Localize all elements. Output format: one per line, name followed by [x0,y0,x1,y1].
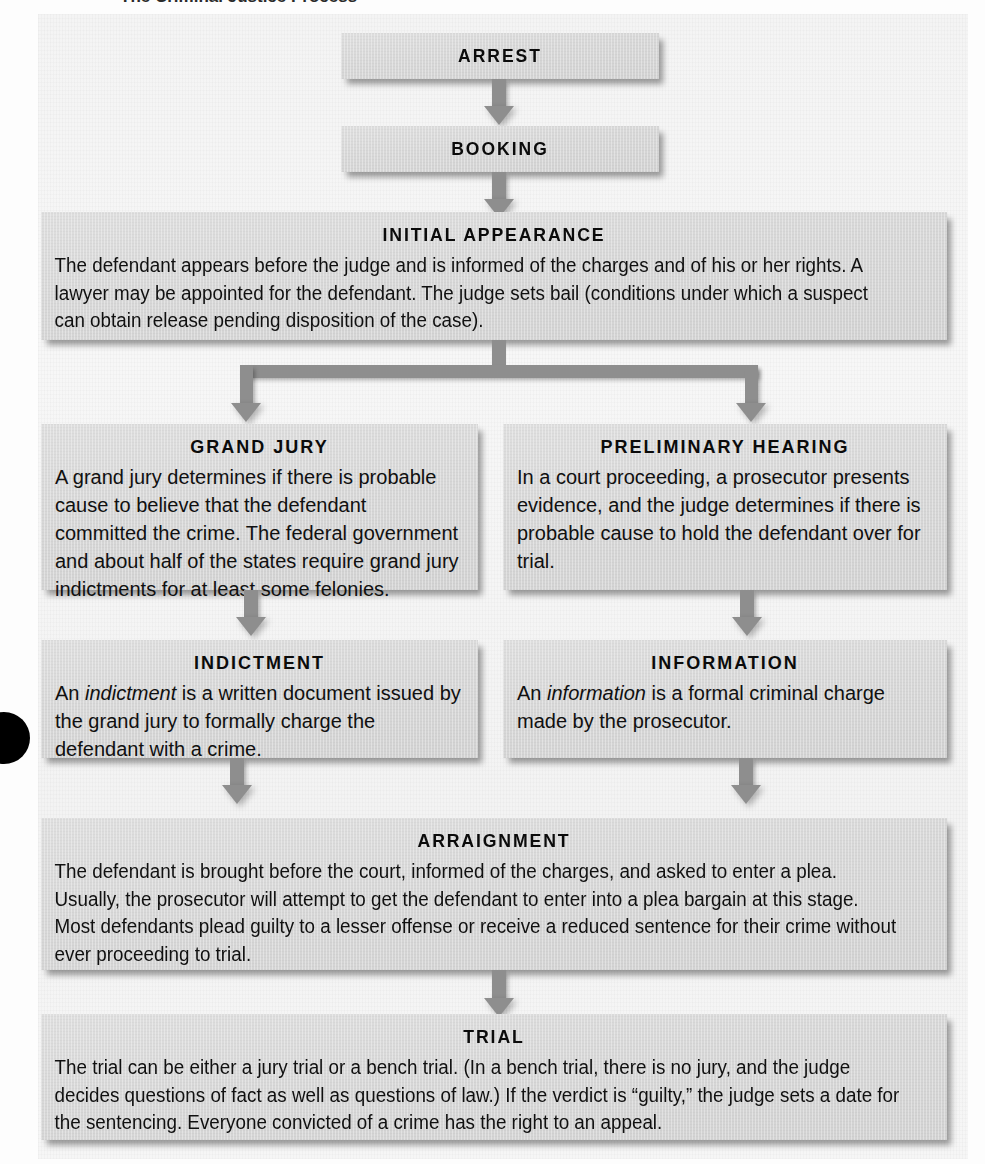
node-arraignment[interactable]: ARRAIGNMENT The defendant is brought bef… [41,818,947,970]
node-arrest-title: ARREST [354,33,647,79]
node-initial-appearance-title: INITIAL APPEARANCE [73,224,916,246]
edge-initial-split-stem [492,340,506,365]
node-trial-body: The trial can be either a jury trial or … [41,1054,915,1137]
node-booking[interactable]: BOOKING [341,126,659,172]
node-trial[interactable]: TRIAL The trial can be either a jury tri… [41,1014,947,1140]
node-indictment-body: An indictment is a written document issu… [41,679,478,763]
edge-arraignment-trial-stem [492,970,506,999]
edge-arrest-booking-arrowhead [484,106,514,125]
edge-preliminary-information-arrowhead [732,617,762,636]
edge-indictment-arraignment-stem [230,758,244,787]
node-indictment-body-term: indictment [85,682,176,704]
node-preliminary-hearing[interactable]: PRELIMINARY HEARING In a court proceedin… [503,424,947,590]
clipped-header-sliver: The Criminal Justice Process [0,0,985,10]
edge-grandjury-indictment-stem [244,590,258,619]
node-indictment-body-lead: An [55,682,85,704]
node-information-title: INFORMATION [503,653,947,674]
node-trial-title: TRIAL [73,1026,916,1048]
edge-grandjury-indictment-arrowhead [236,617,266,636]
node-preliminary-hearing-title: PRELIMINARY HEARING [503,437,947,458]
node-grand-jury[interactable]: GRAND JURY A grand jury determines if th… [41,424,478,590]
node-information[interactable]: INFORMATION An information is a formal c… [503,640,947,758]
node-information-body-term: information [547,682,646,704]
node-arraignment-body: The defendant is brought before the cour… [41,858,915,968]
node-grand-jury-body: A grand jury determines if there is prob… [41,463,478,603]
node-initial-appearance[interactable]: INITIAL APPEARANCE The defendant appears… [41,212,947,340]
edge-information-arraignment-stem [739,758,753,787]
edge-indictment-arraignment-arrowhead [222,785,252,804]
node-grand-jury-title: GRAND JURY [41,437,478,458]
node-initial-appearance-body: The defendant appears before the judge a… [41,252,915,335]
node-arrest[interactable]: ARREST [341,33,659,79]
node-booking-title: BOOKING [354,126,647,172]
edge-initial-preliminary-arrowhead [736,403,766,422]
page-edge-dot-marker [0,712,30,764]
edge-initial-split-right-stem [745,365,758,406]
clipped-header-text: The Criminal Justice Process [120,0,357,7]
edge-initial-split-bar [240,365,758,378]
node-information-body: An information is a formal criminal char… [503,679,947,735]
flowchart-page: The Criminal Justice Process ARREST BOOK… [0,0,985,1164]
edge-initial-grandjury-arrowhead [231,403,261,422]
node-information-body-lead: An [517,682,547,704]
edge-preliminary-information-stem [740,590,754,619]
edge-booking-initial-stem [492,172,506,201]
node-indictment-title: INDICTMENT [41,653,478,674]
edge-arrest-booking-stem [492,79,506,108]
node-arraignment-title: ARRAIGNMENT [73,830,916,852]
edge-information-arraignment-arrowhead [731,785,761,804]
node-preliminary-hearing-body: In a court proceeding, a prosecutor pres… [503,463,947,575]
node-indictment[interactable]: INDICTMENT An indictment is a written do… [41,640,478,758]
edge-initial-split-left-stem [240,365,253,406]
